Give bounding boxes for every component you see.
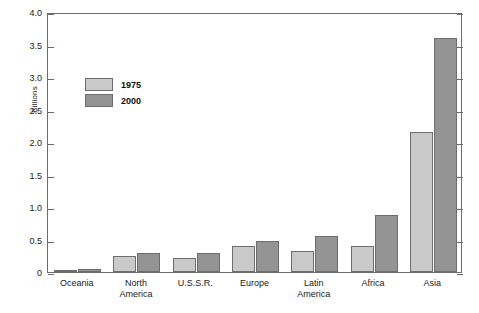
legend-item-1975: 1975 xyxy=(85,78,141,91)
legend-item-2000: 2000 xyxy=(85,94,141,107)
bar-group xyxy=(113,14,160,272)
bar-group xyxy=(173,14,220,272)
bar-1975 xyxy=(113,256,136,272)
bar-1975 xyxy=(232,246,255,272)
bar-1975 xyxy=(291,251,314,272)
bar-2000 xyxy=(375,215,398,272)
bar-1975 xyxy=(410,132,433,272)
bar-2000 xyxy=(197,253,220,272)
bar-1975 xyxy=(173,258,196,272)
legend-swatch-1975 xyxy=(85,78,113,91)
bar-group xyxy=(54,14,101,272)
bar-2000 xyxy=(256,241,279,272)
bar-chart: Billions 00.51.01.52.02.53.03.54.0 Ocean… xyxy=(0,0,479,313)
bar-2000 xyxy=(78,269,101,272)
bar-2000 xyxy=(315,236,338,272)
bar-group xyxy=(291,14,338,272)
plot-area: 00.51.01.52.02.53.03.54.0 xyxy=(47,13,462,273)
y-tick-label: 0 xyxy=(12,268,42,278)
y-tick-label: 3.5 xyxy=(12,41,42,51)
x-axis-label: Asia xyxy=(392,278,472,289)
y-tick-label: 3.0 xyxy=(12,73,42,83)
bar-1975 xyxy=(54,270,77,272)
bar-group xyxy=(410,14,457,272)
y-tick-label: 4.0 xyxy=(12,8,42,18)
bar-group xyxy=(351,14,398,272)
bar-group xyxy=(232,14,279,272)
y-tick-mark-right xyxy=(457,274,463,275)
legend-label-2000: 2000 xyxy=(121,96,141,106)
y-tick-label: 2.0 xyxy=(12,138,42,148)
legend-swatch-2000 xyxy=(85,94,113,107)
y-tick-label: 0.5 xyxy=(12,236,42,246)
legend-label-1975: 1975 xyxy=(121,80,141,90)
bar-1975 xyxy=(351,246,374,272)
bar-2000 xyxy=(434,38,457,272)
y-tick-label: 2.5 xyxy=(12,106,42,116)
y-tick-label: 1.0 xyxy=(12,203,42,213)
legend: 1975 2000 xyxy=(85,78,141,110)
bars-layer xyxy=(48,14,461,272)
y-tick-mark xyxy=(48,274,54,275)
y-tick-label: 1.5 xyxy=(12,171,42,181)
bar-2000 xyxy=(137,253,160,272)
